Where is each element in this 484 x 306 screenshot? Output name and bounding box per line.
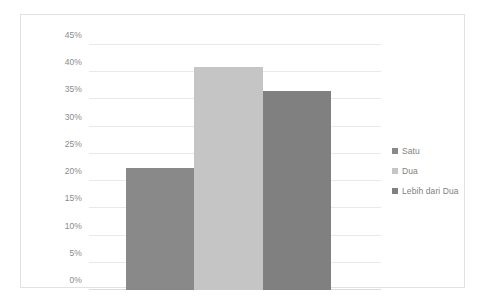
legend-item[interactable]: Satu	[392, 141, 482, 161]
y-axis-tick-label: 0%	[70, 275, 83, 285]
legend-item[interactable]: Dua	[392, 161, 482, 181]
bar-satu[interactable]	[126, 168, 194, 291]
chart-frame: 0%5%10%15%20%25%30%35%40%45% SatuDuaLebi…	[20, 14, 465, 288]
bar-chart-figure: 0%5%10%15%20%25%30%35%40%45% SatuDuaLebi…	[0, 0, 484, 306]
legend-item-label: Lebih dari Dua	[402, 186, 459, 196]
y-axis-tick-label: 40%	[65, 57, 82, 67]
y-axis-tick-label: 25%	[65, 139, 82, 149]
y-axis-tick-label: 5%	[70, 248, 83, 258]
y-axis-tick-label: 35%	[65, 84, 82, 94]
bar-dua[interactable]	[194, 67, 262, 290]
bar-series	[126, 45, 331, 290]
plot-area: 0%5%10%15%20%25%30%35%40%45%	[89, 45, 381, 290]
y-axis-tick-label: 20%	[65, 166, 82, 176]
y-axis-tick-label: 10%	[65, 221, 82, 231]
y-axis-tick-label: 15%	[65, 193, 82, 203]
bar-lebih-dari-dua[interactable]	[263, 91, 331, 290]
legend-swatch-icon	[392, 148, 398, 154]
legend-item-label: Dua	[402, 166, 418, 176]
legend-swatch-icon	[392, 168, 398, 174]
legend-swatch-icon	[392, 188, 398, 194]
legend-item[interactable]: Lebih dari Dua	[392, 181, 482, 201]
y-axis-tick-label: 45%	[65, 30, 82, 40]
legend-item-label: Satu	[402, 146, 420, 156]
chart-legend: SatuDuaLebih dari Dua	[392, 141, 482, 201]
y-axis-tick-label: 30%	[65, 112, 82, 122]
